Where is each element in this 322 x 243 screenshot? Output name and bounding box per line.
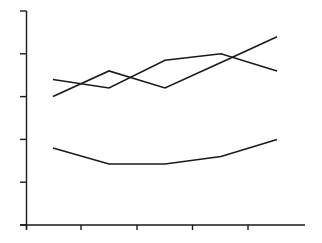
series-group <box>53 37 277 164</box>
series-line-c <box>53 139 277 164</box>
line-chart <box>0 0 322 243</box>
series-line-b <box>53 37 277 97</box>
series-line-a <box>53 54 277 88</box>
